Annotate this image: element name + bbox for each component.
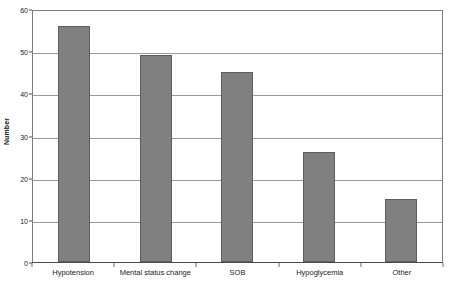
x-axis-label: Other	[361, 268, 443, 284]
bar[interactable]	[385, 199, 417, 262]
bar[interactable]	[303, 152, 335, 262]
x-tick-mark	[196, 263, 197, 267]
x-axis-tick-marks	[32, 263, 443, 267]
x-axis-labels: HypotensionMental status changeSOBHypogl…	[32, 268, 443, 284]
y-axis-ticks: 0102030405060	[14, 0, 32, 286]
y-tick-label: 40	[20, 91, 28, 98]
y-tick-label: 30	[20, 133, 28, 140]
y-tick-label: 20	[20, 175, 28, 182]
x-axis-label: SOB	[196, 268, 278, 284]
bar[interactable]	[58, 26, 90, 262]
bar-slot	[197, 11, 279, 262]
plot-area	[32, 10, 443, 263]
x-tick-mark	[360, 263, 361, 267]
x-tick-mark	[278, 263, 279, 267]
x-tick-mark	[114, 263, 115, 267]
y-axis-title: Number	[0, 0, 14, 263]
bar-slot	[278, 11, 360, 262]
bar-slot	[115, 11, 197, 262]
bar[interactable]	[221, 72, 253, 262]
y-tick-label: 60	[20, 7, 28, 14]
y-tick-label: 10	[20, 217, 28, 224]
x-axis-label: Hypoglycemia	[279, 268, 361, 284]
y-tick-label: 50	[20, 49, 28, 56]
x-axis-label: Mental status change	[114, 268, 196, 284]
y-axis-title-text: Number	[4, 118, 11, 145]
bars-layer	[33, 11, 442, 262]
x-tick-mark	[32, 263, 33, 267]
bar[interactable]	[140, 55, 172, 262]
bar-slot	[360, 11, 442, 262]
x-axis-label: Hypotension	[32, 268, 114, 284]
y-tick-label: 0	[24, 260, 28, 267]
bar-slot	[33, 11, 115, 262]
bar-chart: Number 0102030405060 HypotensionMental s…	[0, 0, 453, 286]
x-tick-mark	[443, 263, 444, 267]
